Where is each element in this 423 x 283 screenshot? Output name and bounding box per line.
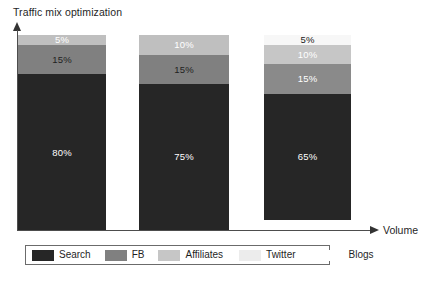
legend-swatch-icon — [239, 250, 261, 261]
bar-segment-fb: 15% — [264, 64, 351, 93]
legend-swatch-icon — [158, 250, 180, 261]
legend-label: Twitter — [266, 249, 295, 261]
legend-item-blogs[interactable]: Blogs — [322, 246, 374, 264]
bar-segment-value-label: 10% — [298, 49, 318, 60]
bar-1: 5%15%80% — [18, 35, 106, 230]
bar-3: 5%10%15%65% — [264, 35, 351, 230]
bar-segment-value-label: 15% — [52, 54, 72, 65]
bar-segment-value-label: 65% — [298, 151, 318, 162]
legend-item-search[interactable]: Search — [32, 246, 91, 264]
bar-2: 10%15%75% — [139, 35, 229, 230]
chart-container: Traffic mix optimization Volume 5%15%80%… — [0, 0, 423, 283]
legend-swatch-icon — [322, 250, 344, 261]
bar-segment-affiliates: 10% — [264, 45, 351, 65]
bar-segment-value-label: 15% — [298, 73, 318, 84]
legend-label: Affiliates — [185, 249, 223, 261]
legend-label: FB — [132, 249, 145, 261]
legend-item-twitter[interactable]: Twitter — [239, 246, 295, 264]
bar-segment-search: 65% — [264, 94, 351, 221]
bar-segment-value-label: 5% — [55, 35, 69, 45]
bar-segment-search: 80% — [18, 74, 106, 230]
bar-segment-value-label: 10% — [174, 39, 194, 50]
bar-segment-value-label: 5% — [300, 35, 314, 45]
chart-legend: SearchFBAffiliatesTwitterBlogs — [25, 245, 330, 265]
legend-label: Blogs — [349, 249, 374, 261]
bar-segment-value-label: 75% — [174, 151, 194, 162]
legend-item-affiliates[interactable]: Affiliates — [158, 246, 223, 264]
bar-segment-affiliates: 10% — [139, 35, 229, 55]
bar-segment-value-label: 15% — [174, 64, 194, 75]
bar-segment-twitter: 5% — [264, 35, 351, 45]
bar-segment-search: 75% — [139, 84, 229, 230]
legend-item-fb[interactable]: FB — [105, 246, 145, 264]
bar-segment-fb: 15% — [18, 45, 106, 74]
legend-swatch-icon — [32, 250, 54, 261]
legend-label: Search — [59, 249, 91, 261]
legend-swatch-icon — [105, 250, 127, 261]
bar-segment-value-label: 80% — [52, 147, 72, 158]
bar-segment-affiliates: 5% — [18, 35, 106, 45]
bar-segment-fb: 15% — [139, 55, 229, 84]
plot-area: 5%15%80%10%15%75%5%10%15%65% — [0, 0, 423, 283]
